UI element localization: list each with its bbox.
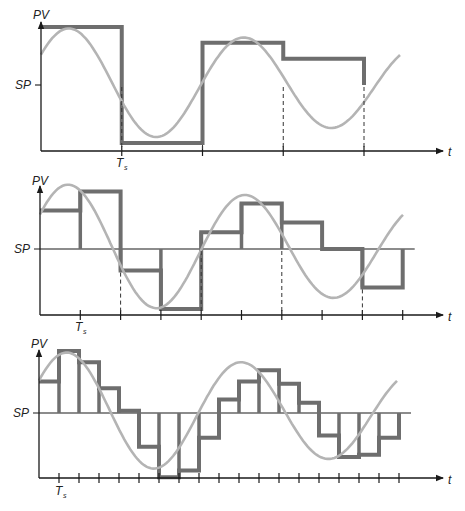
panel2-sp-label: SP [14, 242, 30, 256]
panel3-ts-sub: s [63, 492, 67, 499]
panel2-pv-label: PV [32, 174, 49, 188]
panel3-pv-label: PV [31, 337, 48, 351]
panel1-t-label: t [448, 145, 452, 159]
panel3-t-label: t [448, 473, 452, 487]
sampled-signal [39, 351, 399, 477]
panel1-ts-sub: s [124, 164, 128, 171]
continuous-pv-curve [40, 185, 403, 309]
panel1-sp-label: SP [15, 78, 31, 92]
panel3-sp-label: SP [13, 406, 29, 420]
panel-coarse-sampling [35, 22, 443, 156]
panel-medium-sampling [34, 185, 443, 320]
panel1-pv-label: PV [33, 8, 50, 22]
panel2-ts-sub: s [83, 328, 87, 335]
panel-fine-sampling [33, 350, 443, 483]
sampling-figure: PV SP t T s PV SP t T s PV SP t T s [0, 0, 465, 511]
panel2-t-label: t [448, 310, 452, 324]
